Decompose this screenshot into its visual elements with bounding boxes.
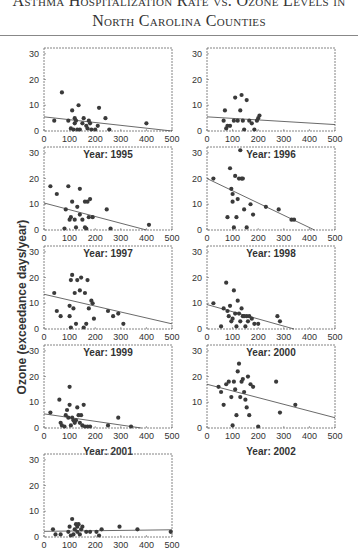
- data-point: [84, 530, 88, 534]
- data-point: [78, 127, 82, 131]
- trend-line: [44, 203, 146, 230]
- data-point: [87, 215, 91, 219]
- y-tick-label: 20: [29, 273, 39, 283]
- data-point: [236, 119, 240, 123]
- y-tick-label: 20: [192, 174, 202, 184]
- data-point: [222, 306, 226, 310]
- x-tick-label: 100: [62, 540, 77, 550]
- data-point: [121, 322, 125, 326]
- x-tick-label: 500: [327, 134, 342, 144]
- data-point: [251, 385, 255, 389]
- data-point: [147, 223, 151, 227]
- data-point: [278, 319, 282, 323]
- data-point: [227, 380, 231, 384]
- y-tick-label: 10: [29, 100, 39, 110]
- data-point: [275, 314, 279, 318]
- x-tick-label: 400: [302, 233, 317, 243]
- y-tick-label: 30: [192, 247, 202, 257]
- data-point: [73, 218, 77, 222]
- data-point: [224, 281, 228, 285]
- data-point: [106, 423, 110, 427]
- data-point: [91, 301, 95, 305]
- y-tick-label: 20: [192, 372, 202, 382]
- data-point: [82, 403, 86, 407]
- x-tick-label: 300: [276, 134, 291, 144]
- plot-frame: [44, 48, 172, 131]
- data-point: [251, 212, 255, 216]
- data-point: [233, 387, 237, 391]
- data-point: [66, 119, 70, 123]
- data-point: [52, 291, 56, 295]
- x-tick-label: 400: [139, 431, 154, 441]
- x-tick-label: 0: [41, 540, 46, 550]
- data-point: [74, 225, 78, 229]
- x-tick-label: 200: [88, 332, 103, 342]
- plot-frame: [44, 454, 172, 537]
- data-point: [243, 324, 247, 328]
- data-point: [231, 423, 235, 427]
- data-point: [68, 304, 72, 308]
- data-point: [229, 187, 233, 191]
- data-point: [243, 398, 247, 402]
- data-point: [66, 416, 70, 420]
- data-point: [237, 311, 241, 315]
- data-point: [91, 215, 95, 219]
- x-tick-label: 500: [164, 540, 179, 550]
- data-point: [248, 202, 252, 206]
- panel-year-label: Year: 2000: [246, 347, 296, 358]
- data-point: [234, 215, 238, 219]
- data-point: [88, 424, 92, 428]
- data-point: [223, 108, 227, 112]
- y-tick-label: 0: [197, 126, 202, 136]
- y-tick-label: 30: [192, 49, 202, 59]
- x-tick-label: 300: [113, 233, 128, 243]
- y-tick-label: 10: [192, 397, 202, 407]
- data-point: [92, 317, 96, 321]
- x-tick-label: 300: [113, 134, 128, 144]
- data-point: [238, 395, 242, 399]
- data-point: [84, 322, 88, 326]
- data-point: [55, 309, 59, 313]
- x-tick-label: 0: [41, 332, 46, 342]
- data-point: [245, 225, 249, 229]
- data-point: [100, 527, 104, 531]
- data-point: [293, 403, 297, 407]
- data-point: [292, 218, 296, 222]
- x-tick-label: 300: [113, 431, 128, 441]
- data-point: [60, 90, 64, 94]
- data-point: [242, 207, 246, 211]
- y-tick-label: 0: [34, 532, 39, 542]
- data-point: [68, 385, 72, 389]
- data-point: [241, 377, 245, 381]
- x-tick-label: 400: [139, 233, 154, 243]
- x-tick-label: 100: [62, 332, 77, 342]
- data-point: [245, 405, 249, 409]
- data-point: [69, 423, 73, 427]
- x-tick-label: 400: [302, 134, 317, 144]
- data-point: [246, 374, 250, 378]
- data-point: [89, 127, 93, 131]
- data-point: [82, 325, 86, 329]
- data-point: [55, 192, 59, 196]
- data-point: [74, 322, 78, 326]
- data-point: [239, 306, 243, 310]
- x-tick-label: 0: [41, 134, 46, 144]
- data-point: [74, 418, 78, 422]
- data-point: [227, 314, 231, 318]
- data-point: [238, 148, 242, 152]
- x-tick-label: 500: [164, 233, 179, 243]
- data-point: [211, 176, 215, 180]
- data-point: [88, 197, 92, 201]
- data-point: [106, 309, 110, 313]
- data-point: [169, 530, 173, 534]
- x-tick-label: 0: [204, 134, 209, 144]
- x-tick-label: 400: [139, 540, 154, 550]
- x-tick-label: 100: [225, 332, 240, 342]
- data-point: [88, 530, 92, 534]
- y-tick-label: 0: [197, 225, 202, 235]
- data-point: [68, 525, 72, 529]
- data-point: [111, 314, 115, 318]
- x-tick-label: 300: [113, 332, 128, 342]
- y-tick-label: 20: [192, 273, 202, 283]
- data-point: [83, 291, 87, 295]
